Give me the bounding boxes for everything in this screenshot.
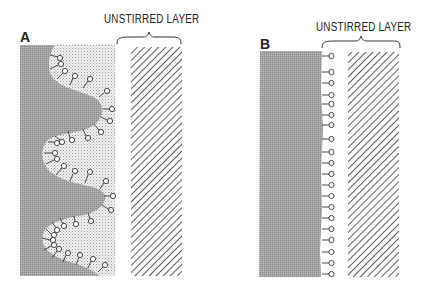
unstirred-layer-diagram: [0, 0, 423, 294]
panel-a-unstirred-layer-hatch: [131, 47, 182, 276]
panel-b-brace: [322, 36, 400, 48]
panel-b-unstirred-layer-hatch: [348, 52, 399, 277]
panel-b-surface-molecules: [322, 53, 334, 276]
panel-a-brace: [117, 32, 181, 44]
panel-b-cell-body: [259, 51, 323, 277]
